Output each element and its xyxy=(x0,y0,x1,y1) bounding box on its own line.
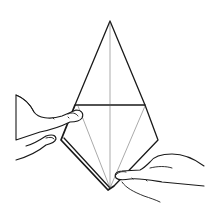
paper-model xyxy=(61,21,158,190)
left-upper-hand xyxy=(16,95,83,140)
paper-inner-left-edge xyxy=(64,138,110,188)
paper-outline xyxy=(75,21,158,186)
right-hand xyxy=(115,154,204,202)
origami-illustration xyxy=(0,0,218,218)
left-lower-hand xyxy=(16,135,56,160)
origami-diagram xyxy=(0,0,218,218)
